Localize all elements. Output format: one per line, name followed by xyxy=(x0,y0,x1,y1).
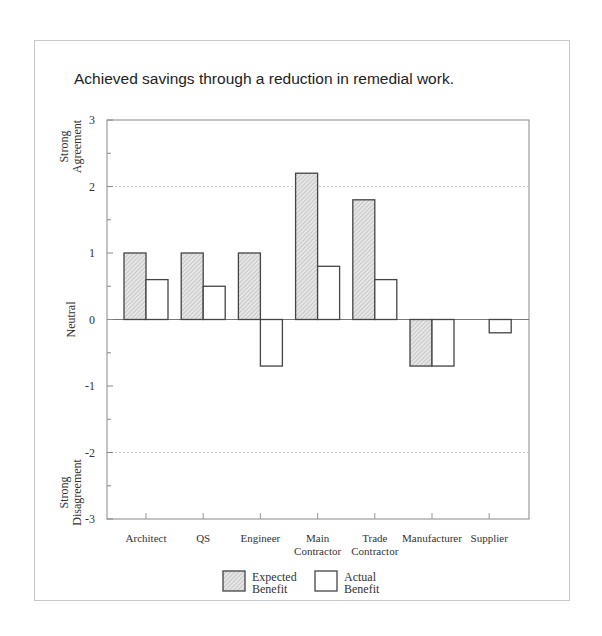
bar-expected-benefit xyxy=(238,253,260,320)
bar-expected-benefit xyxy=(296,173,318,319)
y-annotation: StrongDisagreement xyxy=(57,458,84,525)
category-label: Engineer xyxy=(241,532,281,544)
bar-chart: 3210-1-2-3StrongAgreementNeutralStrongDi… xyxy=(0,0,602,636)
bar-actual-benefit xyxy=(489,320,511,333)
y-annotation: Neutral xyxy=(64,301,78,338)
category-label: Architect xyxy=(126,532,167,544)
y-tick-label: 1 xyxy=(89,246,95,260)
bars xyxy=(124,173,511,366)
category-label: Contractor xyxy=(351,545,398,557)
legend-label: Benefit xyxy=(252,582,288,596)
category-label: Supplier xyxy=(471,532,509,544)
svg-text:Neutral: Neutral xyxy=(64,301,78,338)
y-annotation: StrongAgreement xyxy=(57,119,84,173)
category-label: Main xyxy=(306,532,330,544)
legend: ExpectedBenefitActualBenefit xyxy=(223,570,380,596)
svg-text:Strong: Strong xyxy=(57,476,71,508)
bar-actual-benefit xyxy=(318,266,340,319)
bar-actual-benefit xyxy=(146,280,168,320)
legend-swatch-actual xyxy=(315,571,337,591)
legend-swatch-expected xyxy=(223,571,245,591)
svg-text:Strong: Strong xyxy=(57,131,71,163)
bar-expected-benefit xyxy=(181,253,203,320)
y-tick-label: -2 xyxy=(85,446,95,460)
y-tick-label: -3 xyxy=(85,512,95,526)
bar-actual-benefit xyxy=(203,286,225,319)
bar-expected-benefit xyxy=(353,200,375,320)
svg-text:Agreement: Agreement xyxy=(70,119,84,173)
bar-actual-benefit xyxy=(432,320,454,367)
category-label: Trade xyxy=(362,532,387,544)
svg-text:Disagreement: Disagreement xyxy=(70,458,84,525)
category-label: QS xyxy=(196,532,210,544)
bar-expected-benefit xyxy=(124,253,146,320)
y-tick-label: -1 xyxy=(85,379,95,393)
bar-expected-benefit xyxy=(410,320,432,367)
category-label: Contractor xyxy=(294,545,341,557)
y-tick-label: 0 xyxy=(89,313,95,327)
category-label: Manufacturer xyxy=(402,532,462,544)
bar-actual-benefit xyxy=(260,320,282,367)
y-tick-label: 2 xyxy=(89,180,95,194)
bar-actual-benefit xyxy=(375,280,397,320)
legend-label: Benefit xyxy=(344,582,380,596)
y-tick-label: 3 xyxy=(89,113,95,127)
